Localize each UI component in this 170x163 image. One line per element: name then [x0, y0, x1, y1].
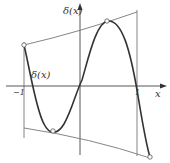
error-curve-diagram: δ(x) x δ(x) −1 1 [0, 0, 170, 163]
curve-label: δ(x) [31, 69, 51, 80]
lower-envelope [24, 128, 150, 158]
y-axis-label: δ(x) [63, 5, 83, 16]
x-axis-arrow-icon [160, 84, 167, 89]
delta-curve [24, 21, 150, 157]
extremum-marker [105, 19, 109, 23]
x-axis-label: x [155, 88, 161, 99]
tick-label-one: 1 [135, 88, 140, 97]
extremum-marker [51, 129, 55, 133]
extremum-marker [22, 43, 26, 47]
extremum-marker [148, 155, 152, 159]
tick-label-minus-one: −1 [13, 88, 25, 97]
